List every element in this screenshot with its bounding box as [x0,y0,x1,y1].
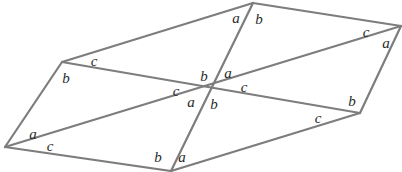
label-top-b: b [255,12,263,27]
label-right-a: a [382,36,390,51]
label-center-a-upper: a [224,66,232,81]
edge-group [5,3,401,171]
label-bottom-left-a: a [29,127,37,142]
edge-bottom-to-bottom-left [5,147,171,171]
diagonal-bottom-left-to-right [5,26,401,147]
label-bottom-left-c: c [47,139,54,154]
label-right-c: c [363,25,370,40]
label-bottom-right-c: c [315,111,322,126]
label-bottom-a: a [178,150,186,165]
label-center-b-upper: b [200,69,208,84]
edge-bottom-right-to-bottom [171,113,360,171]
label-top-left-b: b [62,71,70,86]
label-center-c-left: c [173,84,180,99]
label-bottom-b: b [154,150,162,165]
label-bottom-right-b: b [348,94,356,109]
figure-canvas [0,0,402,172]
geometry-figure: abcacbbaccabbcacba [0,0,402,172]
label-center-c-right: c [241,80,248,95]
label-center-a-lower: a [187,95,195,110]
label-top-a: a [232,11,240,26]
edge-top-to-right [253,3,401,26]
label-top-left-c: c [91,54,98,69]
label-center-b-lower: b [210,97,218,112]
